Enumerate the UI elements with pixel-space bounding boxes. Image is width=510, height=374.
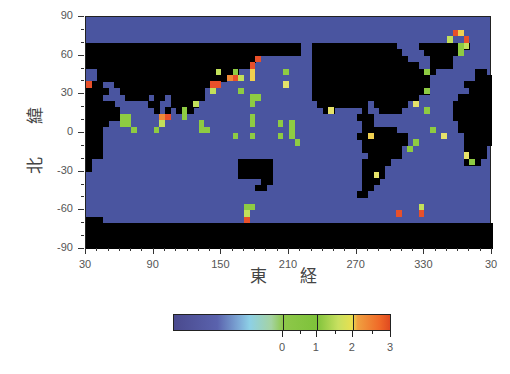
x-minor-tick — [412, 248, 413, 251]
data-cell — [424, 107, 430, 113]
y-minor-tick — [81, 196, 84, 197]
colorbar-minor-tick — [300, 331, 301, 334]
x-minor-tick — [265, 248, 266, 251]
data-cell — [469, 159, 475, 165]
y-tick — [78, 55, 84, 56]
colorbar-minor-tick — [335, 331, 336, 334]
data-cell — [182, 114, 188, 120]
data-cell — [86, 81, 92, 87]
data-cell — [419, 210, 425, 216]
y-tick — [78, 132, 84, 133]
data-cell — [238, 75, 244, 81]
data-cell — [159, 120, 165, 126]
x-minor-tick — [378, 248, 379, 251]
data-cell — [165, 114, 171, 120]
data-cell — [464, 43, 470, 49]
data-cell — [255, 56, 261, 62]
y-minor-tick — [81, 158, 84, 159]
x-tick — [423, 248, 424, 254]
land-cell — [357, 191, 369, 198]
colorbar-divider — [283, 315, 284, 330]
y-minor-tick — [81, 68, 84, 69]
x-minor-tick — [299, 248, 300, 251]
y-minor-tick — [81, 184, 84, 185]
x-tick-label: 150 — [200, 258, 240, 270]
y-tick-label: -90 — [33, 241, 73, 253]
y-tick — [78, 16, 84, 17]
x-minor-tick — [344, 248, 345, 251]
colorbar — [173, 314, 391, 331]
land-cell — [86, 165, 92, 172]
data-cell — [250, 101, 256, 107]
data-cell — [430, 127, 436, 133]
x-minor-tick — [322, 248, 323, 251]
data-cell — [216, 81, 222, 87]
data-cell — [250, 75, 256, 81]
land-cell — [255, 185, 267, 192]
data-cell — [154, 127, 160, 133]
data-cell — [424, 88, 430, 94]
data-cell — [244, 217, 250, 223]
y-tick — [78, 171, 84, 172]
x-minor-tick — [333, 248, 334, 251]
x-minor-tick — [209, 248, 210, 251]
x-minor-tick — [311, 248, 312, 251]
x-tick-label: 90 — [133, 258, 173, 270]
land-cell — [86, 243, 493, 250]
data-cell — [204, 127, 210, 133]
data-cell — [233, 133, 239, 139]
colorbar-tick — [282, 331, 283, 337]
x-minor-tick — [232, 248, 233, 251]
data-cell — [216, 69, 222, 75]
x-minor-tick — [457, 248, 458, 251]
x-tick — [288, 248, 289, 254]
x-tick — [153, 248, 154, 254]
x-minor-tick — [435, 248, 436, 251]
x-tick-label: 270 — [336, 258, 376, 270]
y-tick — [78, 248, 84, 249]
data-cell — [441, 133, 447, 139]
colorbar-divider — [317, 315, 318, 330]
y-tick-label: 0 — [33, 125, 73, 137]
colorbar-tick — [352, 331, 353, 337]
x-minor-tick — [390, 248, 391, 251]
y-tick — [78, 209, 84, 210]
x-tick-label: 330 — [403, 258, 443, 270]
y-minor-tick — [81, 222, 84, 223]
x-minor-tick — [367, 248, 368, 251]
y-tick — [78, 93, 84, 94]
data-cell — [193, 101, 199, 107]
y-tick-label: 30 — [33, 86, 73, 98]
data-cell — [283, 81, 289, 87]
x-minor-tick — [468, 248, 469, 251]
data-cell — [374, 172, 380, 178]
data-cell — [250, 120, 256, 126]
data-cell — [250, 133, 256, 139]
data-cell — [328, 107, 334, 113]
colorbar-tick — [390, 331, 391, 337]
x-tick — [356, 248, 357, 254]
data-cell — [447, 36, 453, 42]
x-minor-tick — [119, 248, 120, 251]
y-minor-tick — [81, 29, 84, 30]
colorbar-tick-label: 1 — [306, 341, 326, 353]
y-tick-label: 90 — [33, 9, 73, 21]
x-tick — [220, 248, 221, 254]
x-minor-tick — [175, 248, 176, 251]
x-tick-label: 30 — [471, 258, 510, 270]
data-cell — [255, 94, 261, 100]
data-cell — [396, 210, 402, 216]
data-cell — [238, 88, 244, 94]
data-cell — [210, 88, 216, 94]
data-cell — [283, 69, 289, 75]
y-tick-label: -60 — [33, 202, 73, 214]
colorbar-divider — [353, 315, 354, 330]
x-axis-title: 東 経 — [250, 262, 331, 287]
x-tick-label: 30 — [65, 258, 105, 270]
x-minor-tick — [254, 248, 255, 251]
data-cell — [278, 120, 284, 126]
y-tick-label: -30 — [33, 164, 73, 176]
data-cell — [368, 133, 374, 139]
land-cell — [125, 94, 148, 101]
x-minor-tick — [401, 248, 402, 251]
